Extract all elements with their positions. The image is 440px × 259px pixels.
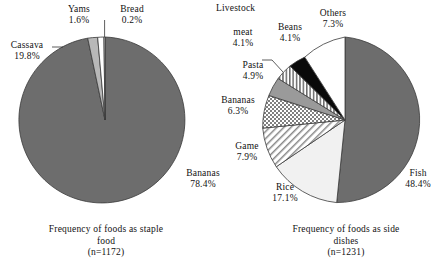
- label-beans: Beans 4.1%: [269, 22, 311, 44]
- label-others-pct: 7.3%: [310, 19, 356, 30]
- label-yams-pct: 1.6%: [57, 15, 101, 26]
- label-beans-name: Beans: [278, 22, 302, 32]
- label-meat-pct: 4.1%: [224, 38, 262, 49]
- label-rice-name: Rice: [276, 182, 294, 192]
- label-cassava-name: Cassava: [11, 40, 44, 50]
- label-livestock-name: Livestock: [216, 3, 255, 13]
- label-game-pct: 7.9%: [226, 152, 268, 163]
- caption-side-line1: Frequency of foods as side: [256, 224, 436, 236]
- two-pie-chart-figure: Yams 1.6% Bread 0.2% Cassava 19.8% Banan…: [0, 0, 440, 259]
- label-pasta-pct: 4.9%: [232, 71, 274, 82]
- leader-line-bananas-staple: [182, 160, 192, 163]
- label-meat-name: meat: [233, 27, 252, 37]
- label-bananas-staple: Bananas 78.4%: [176, 168, 230, 190]
- caption-side-line3: (n=1231): [256, 247, 436, 259]
- label-yams: Yams 1.6%: [57, 4, 101, 26]
- label-bananas-side: Bananas 6.3%: [212, 95, 264, 117]
- caption-side-dishes: Frequency of foods as side dishes (n=123…: [256, 224, 436, 259]
- label-beans-pct: 4.1%: [269, 33, 311, 44]
- pie-side-dishes: [262, 37, 420, 203]
- caption-staple-line3: (n=1172): [18, 247, 194, 259]
- caption-staple-line1: Frequency of foods as staple: [18, 224, 194, 236]
- label-others: Others 7.3%: [310, 8, 356, 30]
- label-bananas-staple-pct: 78.4%: [176, 179, 230, 190]
- label-fish-pct: 48.4%: [398, 179, 438, 190]
- label-rice: Rice 17.1%: [264, 182, 306, 204]
- caption-side-line2: dishes: [256, 236, 436, 248]
- label-bread-pct: 0.2%: [110, 15, 154, 26]
- label-pasta-name: Pasta: [242, 60, 263, 70]
- label-pasta: Pasta 4.9%: [232, 60, 274, 82]
- label-livestock: Livestock: [216, 3, 276, 14]
- label-others-name: Others: [320, 8, 347, 18]
- caption-staple-line2: food: [18, 236, 194, 248]
- label-cassava-pct: 19.8%: [2, 51, 52, 62]
- caption-staple-food: Frequency of foods as staple food (n=117…: [18, 224, 194, 259]
- label-game-name: Game: [235, 141, 258, 151]
- pie-charts-svg: [0, 0, 440, 259]
- label-bread: Bread 0.2%: [110, 4, 154, 26]
- label-cassava: Cassava 19.8%: [2, 40, 52, 62]
- label-bananas-side-name: Bananas: [221, 95, 255, 105]
- label-meat: meat 4.1%: [224, 27, 262, 49]
- label-yams-name: Yams: [68, 4, 90, 14]
- label-rice-pct: 17.1%: [264, 193, 306, 204]
- label-fish-name: Fish: [409, 168, 426, 178]
- label-bread-name: Bread: [120, 4, 144, 14]
- label-game: Game 7.9%: [226, 141, 268, 163]
- label-bananas-staple-name: Bananas: [186, 168, 220, 178]
- label-fish: Fish 48.4%: [398, 168, 438, 190]
- label-bananas-side-pct: 6.3%: [212, 106, 264, 117]
